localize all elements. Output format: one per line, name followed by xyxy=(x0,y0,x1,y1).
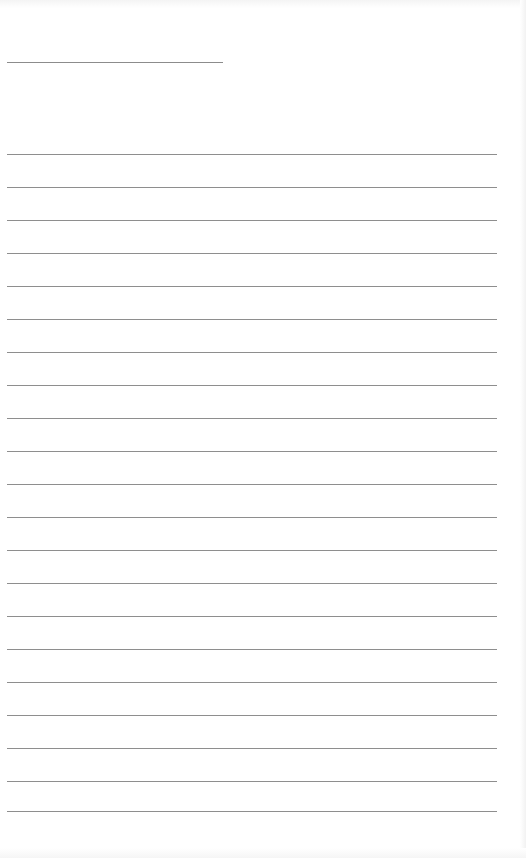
ruled-line-7[interactable] xyxy=(7,352,497,353)
ruled-line-21[interactable] xyxy=(7,811,497,812)
page-edge-shadow xyxy=(520,0,526,858)
ruled-line-12[interactable] xyxy=(7,517,497,518)
ruled-line-3[interactable] xyxy=(7,220,497,221)
ruled-line-15[interactable] xyxy=(7,616,497,617)
ruled-line-10[interactable] xyxy=(7,451,497,452)
ruled-line-9[interactable] xyxy=(7,418,497,419)
ruled-line-1[interactable] xyxy=(7,154,497,155)
ruled-line-20[interactable] xyxy=(7,781,497,782)
document-page xyxy=(0,0,526,858)
ruled-line-14[interactable] xyxy=(7,583,497,584)
ruled-line-11[interactable] xyxy=(7,484,497,485)
ruled-line-13[interactable] xyxy=(7,550,497,551)
ruled-line-17[interactable] xyxy=(7,682,497,683)
ruled-line-18[interactable] xyxy=(7,715,497,716)
ruled-lines-area xyxy=(0,0,526,858)
ruled-line-19[interactable] xyxy=(7,748,497,749)
ruled-line-8[interactable] xyxy=(7,385,497,386)
ruled-line-4[interactable] xyxy=(7,253,497,254)
bottom-bleed-through xyxy=(0,848,526,858)
ruled-line-16[interactable] xyxy=(7,649,497,650)
ruled-line-6[interactable] xyxy=(7,319,497,320)
ruled-line-2[interactable] xyxy=(7,187,497,188)
ruled-line-5[interactable] xyxy=(7,286,497,287)
